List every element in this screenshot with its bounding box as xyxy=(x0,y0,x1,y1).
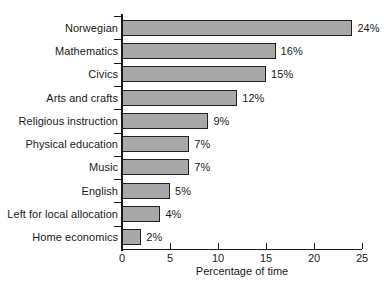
bar-row: 5% xyxy=(122,183,362,199)
category-label: English xyxy=(0,185,118,197)
bar-row: 9% xyxy=(122,113,362,129)
y-axis-tick xyxy=(114,226,121,227)
bar-value-label: 4% xyxy=(165,208,181,220)
bar-row: 2% xyxy=(122,229,362,245)
bar-row: 7% xyxy=(122,159,362,175)
x-axis-tick xyxy=(362,243,363,249)
bar-row: 16% xyxy=(122,43,362,59)
y-axis-tick xyxy=(114,86,121,87)
bar-row: 15% xyxy=(122,66,362,82)
bar-value-label: 24% xyxy=(357,22,379,34)
bar xyxy=(122,183,170,199)
bar-value-label: 15% xyxy=(271,68,293,80)
bar xyxy=(122,206,160,222)
bar xyxy=(122,43,276,59)
y-axis-tick xyxy=(114,133,121,134)
category-axis-labels: NorwegianMathematicsCivicsArts and craft… xyxy=(0,16,118,249)
bar-row: 4% xyxy=(122,206,362,222)
bar-value-label: 12% xyxy=(242,92,264,104)
x-axis-tick xyxy=(266,243,267,249)
bar xyxy=(122,20,352,36)
x-axis-tick xyxy=(122,243,123,249)
category-label: Civics xyxy=(0,68,118,80)
x-axis-tick-label: 10 xyxy=(212,252,224,264)
bar-chart: NorwegianMathematicsCivicsArts and craft… xyxy=(0,0,384,283)
category-label: Home economics xyxy=(0,231,118,243)
x-axis-tick-label: 5 xyxy=(167,252,173,264)
y-axis-tick xyxy=(114,109,121,110)
bar xyxy=(122,159,189,175)
x-axis-tick xyxy=(314,243,315,249)
category-label: Mathematics xyxy=(0,45,118,57)
x-axis-tick xyxy=(218,243,219,249)
y-axis-tick xyxy=(114,179,121,180)
y-axis-line xyxy=(121,14,123,251)
bar-value-label: 7% xyxy=(194,161,210,173)
bar-value-label: 2% xyxy=(146,231,162,243)
bar-row: 7% xyxy=(122,136,362,152)
bar xyxy=(122,136,189,152)
bar-row: 12% xyxy=(122,90,362,106)
bar xyxy=(122,66,266,82)
y-axis-tick xyxy=(114,156,121,157)
x-axis-tick xyxy=(170,243,171,249)
y-axis-tick xyxy=(114,63,121,64)
plot-area: 24%16%15%12%9%7%7%5%4%2% xyxy=(122,16,362,249)
x-axis-tick-label: 0 xyxy=(119,252,125,264)
category-label: Physical education xyxy=(0,138,118,150)
bar-value-label: 7% xyxy=(194,138,210,150)
category-label: Religious instruction xyxy=(0,115,118,127)
y-axis-tick xyxy=(114,39,121,40)
bar xyxy=(122,90,237,106)
bar xyxy=(122,113,208,129)
x-axis-line xyxy=(121,249,362,251)
category-label: Left for local allocation xyxy=(0,208,118,220)
category-label: Arts and crafts xyxy=(0,92,118,104)
category-label: Norwegian xyxy=(0,22,118,34)
category-label: Music xyxy=(0,161,118,173)
x-axis-tick-label: 20 xyxy=(308,252,320,264)
y-axis-tick xyxy=(114,16,121,17)
x-axis-title: Percentage of time xyxy=(122,265,362,277)
bar-value-label: 5% xyxy=(175,185,191,197)
bar-value-label: 9% xyxy=(213,115,229,127)
bar-row: 24% xyxy=(122,20,362,36)
bar-value-label: 16% xyxy=(281,45,303,57)
x-axis-tick-label: 15 xyxy=(260,252,272,264)
x-axis-tick-label: 25 xyxy=(356,252,368,264)
bar xyxy=(122,229,141,245)
y-axis-tick xyxy=(114,202,121,203)
